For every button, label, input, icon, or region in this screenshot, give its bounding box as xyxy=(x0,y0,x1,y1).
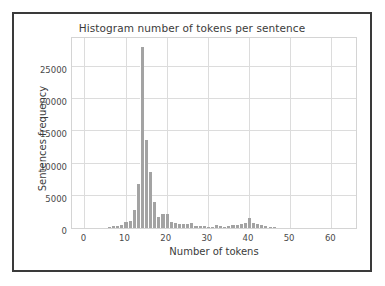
x-tick-label: 50 xyxy=(284,233,295,243)
chart-title: Histogram number of tokens per sentence xyxy=(14,22,370,34)
figure-frame: Histogram number of tokens per sentence … xyxy=(12,12,372,272)
y-tick-label: 5000 xyxy=(45,194,67,196)
x-tick-label: 60 xyxy=(325,233,336,243)
screenshot-root: Histogram number of tokens per sentence … xyxy=(0,0,385,286)
x-tick-label: 0 xyxy=(81,233,86,243)
x-tick-label: 10 xyxy=(119,233,130,243)
figure-inner: Histogram number of tokens per sentence … xyxy=(14,14,370,270)
y-axis-label: Sentences frequency xyxy=(37,43,48,235)
histogram-bar xyxy=(272,227,276,228)
x-tick-label: 20 xyxy=(160,233,171,243)
y-tick-label: 0 xyxy=(62,226,67,228)
plot-area xyxy=(71,37,357,229)
histogram-bars xyxy=(72,38,356,228)
x-axis-label: Number of tokens xyxy=(71,246,357,257)
x-tick-label: 40 xyxy=(243,233,254,243)
x-tick-label: 30 xyxy=(201,233,212,243)
x-axis-tick-labels: 0102030405060 xyxy=(71,233,357,247)
